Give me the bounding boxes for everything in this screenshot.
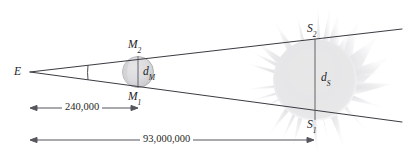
arrowhead-right-240000 — [131, 105, 138, 110]
diagram-canvas — [0, 0, 416, 162]
label-earth-point: E — [14, 66, 21, 78]
label-sun-bottom-point: S1 — [307, 119, 317, 131]
label-sun-diameter: dS — [321, 72, 331, 84]
arrowhead-right-93000000 — [307, 137, 314, 142]
label-sun-top-point: S2 — [307, 23, 317, 35]
dimension-label-earth-sun: 93,000,000 — [140, 134, 193, 145]
arrowhead-left-93000000 — [30, 137, 37, 142]
dimension-label-earth-moon: 240,000 — [62, 102, 102, 113]
label-moon-top-point: M2 — [128, 39, 141, 51]
label-moon-bottom-point: M1 — [128, 91, 141, 103]
label-moon-diameter: dM — [143, 66, 155, 78]
arrowhead-left-240000 — [30, 105, 37, 110]
astronomy-similar-triangles-figure: E M2 M1 dM S2 S1 dS 240,000 93,000,000 — [0, 0, 416, 162]
